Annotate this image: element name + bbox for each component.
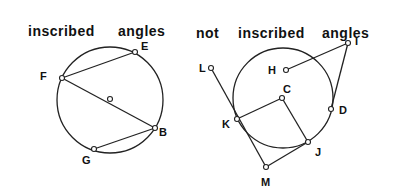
label-e: E xyxy=(141,40,148,52)
title-not: not xyxy=(196,25,219,41)
segment-kc xyxy=(237,98,282,119)
label-c: C xyxy=(283,83,291,95)
label-h: H xyxy=(268,64,276,76)
title-inscribed: inscribed xyxy=(238,25,305,41)
title-inscribed: inscribed xyxy=(28,23,95,39)
center-point-left xyxy=(108,97,113,102)
label-m: M xyxy=(261,176,270,188)
point-d xyxy=(329,107,334,112)
left-figure-inscribed-angles: inscribed angles E F B G xyxy=(28,23,167,166)
inscribed-angles-diagram: inscribed angles E F B G not inscribed a… xyxy=(0,0,397,196)
point-l xyxy=(209,66,214,71)
point-m xyxy=(264,165,269,170)
point-k xyxy=(235,117,240,122)
point-b xyxy=(153,126,158,131)
point-j xyxy=(306,140,311,145)
segment-mj xyxy=(266,142,308,167)
diameter-fb xyxy=(62,78,155,128)
point-f xyxy=(60,76,65,81)
segment-hi xyxy=(286,43,348,70)
chord-fe xyxy=(62,52,135,78)
label-f: F xyxy=(40,70,47,82)
label-l: L xyxy=(199,62,206,74)
label-j: J xyxy=(315,146,321,158)
segment-id xyxy=(331,43,348,109)
label-g: G xyxy=(82,154,91,166)
title-angles: angles xyxy=(322,25,369,41)
label-d: D xyxy=(339,104,347,116)
title-angles: angles xyxy=(118,23,165,39)
label-i: I xyxy=(355,35,358,47)
point-e xyxy=(133,50,138,55)
point-h xyxy=(284,68,289,73)
point-c xyxy=(280,96,285,101)
segment-cj xyxy=(282,98,308,142)
right-figure-not-inscribed-angles: not inscribed angles L H I C K D J M xyxy=(196,25,369,188)
label-b: B xyxy=(159,126,167,138)
point-i xyxy=(346,41,351,46)
label-k: K xyxy=(222,118,230,130)
point-g xyxy=(92,147,97,152)
